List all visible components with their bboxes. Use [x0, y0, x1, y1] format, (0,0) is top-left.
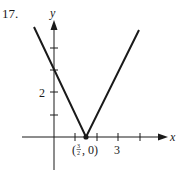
y-axis-arrow-icon	[51, 20, 58, 30]
absolute-value-graph: y x 2 3 ( 3 2 , 0)	[0, 0, 185, 177]
svg-text:2: 2	[77, 150, 80, 156]
vertex-label: ( 3 2 , 0)	[72, 143, 98, 157]
x-tick-label-3: 3	[114, 143, 120, 157]
x-axis-arrow-icon	[158, 134, 168, 141]
x-axis-label: x	[169, 130, 176, 144]
y-axis-label: y	[49, 6, 56, 20]
svg-text:(: (	[72, 143, 76, 157]
svg-text:3: 3	[77, 143, 80, 149]
svg-text:, 0): , 0)	[82, 143, 98, 157]
y-tick-label-2: 2	[39, 86, 45, 100]
graph-line	[34, 27, 139, 137]
vertex-point	[83, 134, 88, 139]
